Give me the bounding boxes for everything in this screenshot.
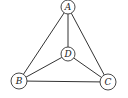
node-a: A — [61, 0, 75, 14]
node-d: D — [61, 47, 75, 61]
node-b: B — [11, 73, 27, 89]
node-label-b: B — [15, 76, 23, 86]
edge-b-d — [26, 57, 62, 77]
node-label-a: A — [64, 2, 72, 12]
node-label-c: C — [105, 77, 112, 87]
graph-diagram: ABCD — [0, 0, 128, 98]
node-label-d: D — [63, 49, 71, 59]
edge-b-c — [27, 81, 100, 82]
edge-a-c — [71, 13, 104, 75]
node-c: C — [100, 74, 116, 90]
edge-a-b — [23, 13, 64, 74]
edges-group — [23, 13, 104, 82]
